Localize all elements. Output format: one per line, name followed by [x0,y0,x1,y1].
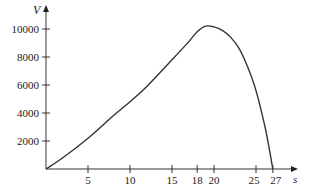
x-axis-label: s [293,173,297,185]
y-ticks: 200040006000800010000 [12,23,51,147]
x-tick-label: 27 [270,174,282,186]
x-axis-arrow-icon [291,166,298,172]
y-tick-label: 4000 [17,107,40,119]
y-tick-label: 2000 [17,135,40,147]
y-tick-label: 10000 [12,23,40,35]
data-curve [46,26,273,169]
x-tick-label: 15 [167,174,179,186]
y-tick-label: 6000 [17,79,40,91]
x-tick-label: 25 [249,174,261,186]
y-tick-label: 8000 [17,51,40,63]
x-tick-label: 18 [192,174,204,186]
x-tick-label: 5 [85,174,91,186]
y-axis-arrow-icon [43,5,49,12]
x-tick-label: 20 [209,174,221,186]
x-tick-label: 10 [125,174,137,186]
axes: V s [33,3,298,185]
chart: V s 200040006000800010000 5101518202527 [0,0,310,190]
y-axis-label: V [33,3,42,17]
x-ticks: 5101518202527 [85,165,282,186]
